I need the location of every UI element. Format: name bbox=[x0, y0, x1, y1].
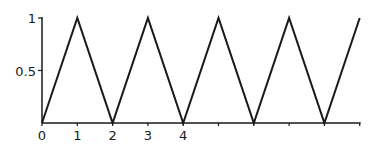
y-tick-label: 1 bbox=[28, 11, 36, 26]
x-tick-label: 0 bbox=[38, 128, 46, 143]
triangle-wave-chart: 012340.51 bbox=[0, 0, 377, 146]
ticks bbox=[38, 18, 360, 126]
y-tick-label: 0.5 bbox=[15, 64, 36, 79]
x-tick-label: 1 bbox=[73, 128, 81, 143]
x-tick-label: 2 bbox=[108, 128, 116, 143]
x-tick-label: 3 bbox=[144, 128, 152, 143]
triangle-wave-line bbox=[42, 18, 360, 123]
x-tick-label: 4 bbox=[179, 128, 187, 143]
